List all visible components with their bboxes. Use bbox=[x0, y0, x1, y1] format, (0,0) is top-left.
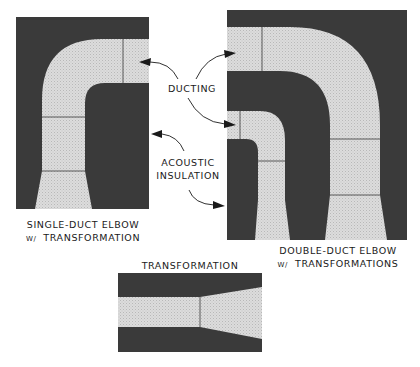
single-duct-caption-line1: SINGLE-DUCT ELBOW bbox=[27, 219, 139, 230]
caption-text: TRANSFORMATION bbox=[42, 232, 140, 243]
arrow-to-single-duct bbox=[150, 62, 178, 79]
arrow-to-outer-duct bbox=[196, 54, 226, 79]
double-duct-elbow bbox=[227, 10, 407, 240]
arrowhead-icon bbox=[213, 201, 225, 209]
duct-diagram: DUCTING ACOUSTIC INSULATION SINGLE-DUCT … bbox=[0, 0, 420, 367]
ducting-label: DUCTING bbox=[168, 83, 216, 94]
with-prefix: W/ bbox=[26, 235, 37, 243]
caption-text: TRANSFORMATIONS bbox=[294, 258, 398, 269]
arrow-to-single-insulation bbox=[162, 134, 184, 151]
acoustic-label: ACOUSTIC bbox=[161, 157, 214, 168]
arrow-to-double-insulation bbox=[189, 190, 214, 205]
arrowhead-icon bbox=[151, 130, 162, 138]
transformation-title: TRANSFORMATION bbox=[141, 260, 239, 271]
with-prefix: W/ bbox=[278, 261, 289, 269]
transformation-figure bbox=[118, 273, 262, 352]
double-duct-caption-line1: DOUBLE-DUCT ELBOW bbox=[279, 245, 396, 256]
insulation-label: INSULATION bbox=[156, 170, 219, 181]
single-duct-elbow bbox=[16, 17, 149, 209]
arrow-to-inner-duct bbox=[188, 98, 225, 124]
